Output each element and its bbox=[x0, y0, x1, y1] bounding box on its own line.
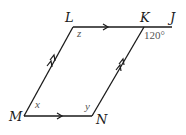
vertex-label-J: J bbox=[167, 10, 176, 25]
parallel-double-arrow-ML-1 bbox=[47, 61, 52, 67]
vertex-label-L: L bbox=[64, 10, 74, 25]
angle-label-120: 120° bbox=[144, 29, 165, 41]
angle-label-z: z bbox=[76, 27, 82, 39]
vertex-label-N: N bbox=[95, 112, 108, 127]
parallel-double-arrow-NK-2 bbox=[119, 59, 124, 65]
segment-ML bbox=[24, 27, 73, 116]
segment-NK bbox=[92, 27, 144, 116]
angle-label-x: x bbox=[34, 98, 40, 110]
vertex-label-K: K bbox=[139, 10, 151, 25]
vertex-label-M: M bbox=[8, 109, 23, 124]
angle-label-y: y bbox=[84, 100, 90, 112]
parallelogram-diagram: L K J M N z x y 120° bbox=[0, 0, 186, 135]
parallel-double-arrow-ML-2 bbox=[50, 55, 55, 61]
